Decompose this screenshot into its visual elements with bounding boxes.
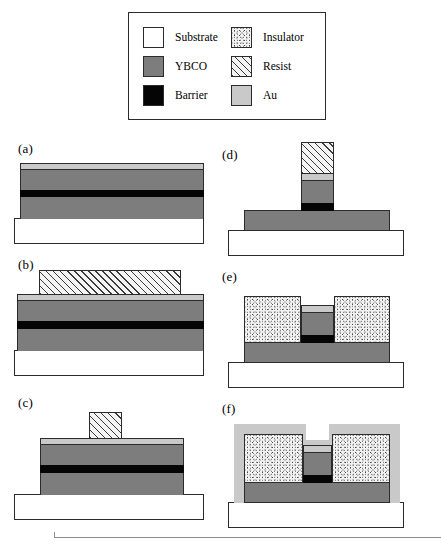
legend-swatch-ybco	[143, 56, 164, 77]
layer-au-mesa-top	[303, 445, 332, 453]
legend-column-left: Substrate YBCO Barrier	[143, 23, 218, 110]
panel-a: (a)	[14, 142, 214, 248]
legend-swatch-au	[231, 85, 252, 106]
legend-label-substrate: Substrate	[175, 32, 218, 44]
layer-barrier	[301, 202, 334, 211]
layer-au	[301, 305, 334, 313]
layer-substrate	[228, 230, 404, 256]
layer-au	[17, 294, 204, 301]
panel-f: (f)	[216, 398, 428, 530]
layer-ybco-mesa	[303, 452, 332, 475]
layer-au	[20, 163, 204, 170]
layer-au	[40, 438, 184, 445]
layer-insulator-right	[332, 434, 390, 483]
layer-ybco-mesa	[301, 180, 334, 203]
layer-au-contact-left-wall	[234, 424, 244, 503]
legend-label-ybco: YBCO	[175, 61, 207, 73]
layer-insulator-left	[244, 296, 301, 343]
layer-barrier	[17, 320, 204, 329]
layer-resist	[301, 142, 334, 174]
legend-swatch-insulator	[231, 27, 252, 48]
layer-substrate	[14, 494, 204, 520]
legend-item-ybco: YBCO	[143, 52, 218, 81]
layer-ybco-upper	[17, 300, 204, 321]
layer-au-contact-right-cap	[329, 424, 400, 434]
panel-d: (d)	[216, 142, 428, 264]
layer-au-contact-right-wall	[390, 424, 400, 503]
layer-substrate	[14, 350, 204, 376]
legend-swatch-resist	[231, 56, 252, 77]
legend-item-insulator: Insulator	[231, 23, 304, 52]
legend-swatch-substrate	[143, 27, 164, 48]
layer-ybco-upper	[40, 444, 184, 465]
panel-e: (e)	[216, 268, 428, 390]
panel-c: (c)	[14, 392, 214, 524]
legend-box: Substrate YBCO Barrier Insulator Resist …	[128, 12, 326, 120]
layer-resist	[39, 270, 181, 295]
layer-ybco-base	[244, 342, 390, 363]
legend-item-barrier: Barrier	[143, 81, 218, 110]
layer-substrate	[14, 218, 204, 244]
panel-label-d: (d)	[222, 148, 238, 161]
panel-label-f: (f)	[222, 402, 236, 415]
legend-label-au: Au	[263, 90, 277, 102]
layer-au	[301, 173, 334, 181]
layer-ybco-upper	[20, 169, 204, 190]
legend-item-substrate: Substrate	[143, 23, 218, 52]
legend-label-barrier: Barrier	[175, 90, 208, 102]
panel-b: (b)	[14, 258, 214, 380]
caption-rule-edge	[54, 532, 55, 538]
legend-item-au: Au	[231, 81, 304, 110]
legend-column-right: Insulator Resist Au	[231, 23, 304, 110]
layer-barrier	[20, 189, 204, 197]
layer-insulator-left	[244, 434, 303, 483]
layer-barrier	[301, 334, 334, 343]
panel-label-e: (e)	[222, 270, 237, 283]
layer-au-contact-left-cap	[234, 424, 306, 434]
layer-ybco-lower	[17, 328, 204, 351]
layer-substrate	[228, 362, 404, 388]
layer-barrier	[303, 474, 332, 483]
layer-ybco-lower	[40, 472, 184, 495]
layer-ybco-lower	[20, 196, 204, 219]
legend-item-resist: Resist	[231, 52, 304, 81]
layer-substrate	[228, 502, 404, 528]
layer-ybco-base	[244, 482, 390, 503]
layer-barrier	[40, 464, 184, 473]
panel-label-a: (a)	[18, 142, 33, 155]
layer-resist	[89, 412, 122, 439]
panel-label-b: (b)	[18, 258, 34, 271]
panel-label-c: (c)	[18, 396, 33, 409]
legend-swatch-barrier	[143, 85, 164, 106]
layer-ybco-mesa	[301, 312, 334, 335]
legend-label-insulator: Insulator	[263, 32, 304, 44]
layer-ybco-base	[244, 210, 390, 231]
legend-label-resist: Resist	[263, 61, 291, 73]
layer-insulator-right	[334, 296, 390, 343]
caption-rule	[54, 537, 441, 538]
